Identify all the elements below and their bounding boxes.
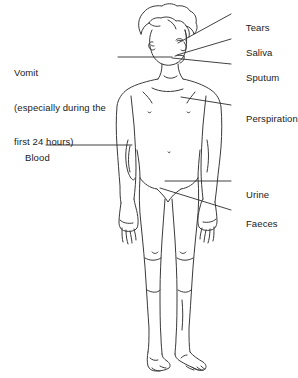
left-forearm-detail	[126, 140, 135, 180]
right-leg	[172, 178, 199, 354]
nose	[181, 42, 186, 51]
chest-detail	[148, 112, 151, 113]
ankle-detail	[150, 358, 158, 360]
navel	[168, 152, 170, 153]
label-sputum: Sputum	[235, 60, 279, 95]
left-hand	[119, 199, 138, 244]
leader-saliva	[177, 39, 231, 55]
label-vomit-line2: (especially during the	[14, 102, 106, 114]
left-leg	[139, 178, 165, 354]
label-blood-text: Blood	[25, 152, 50, 163]
label-faeces: Faeces	[235, 206, 278, 241]
label-blood: Blood	[14, 140, 50, 175]
label-faeces-text: Faeces	[246, 218, 278, 229]
label-vomit-line1: Vomit	[14, 67, 106, 79]
leader-tears	[178, 14, 231, 43]
head-outline	[149, 30, 187, 65]
body-fluids-diagram: Tears Saliva Sputum Perspiration Urine F…	[0, 0, 298, 378]
torso-outline	[116, 79, 222, 203]
right-foot	[175, 352, 206, 371]
left-knee	[145, 258, 161, 260]
label-urine-text: Urine	[246, 189, 269, 200]
label-perspiration-text: Perspiration	[246, 113, 298, 124]
right-knee	[177, 258, 193, 260]
ankle-detail	[181, 355, 187, 358]
label-saliva-text: Saliva	[246, 47, 272, 58]
mouth	[175, 55, 184, 56]
label-tears-text: Tears	[246, 22, 270, 33]
clavicle	[152, 88, 183, 92]
right-forearm-detail	[207, 140, 209, 172]
left-foot	[147, 352, 170, 371]
neck	[158, 64, 183, 79]
label-perspiration: Perspiration	[235, 101, 298, 136]
hair-outline	[139, 4, 197, 37]
label-sputum-text: Sputum	[246, 72, 279, 83]
right-hand	[198, 199, 217, 243]
